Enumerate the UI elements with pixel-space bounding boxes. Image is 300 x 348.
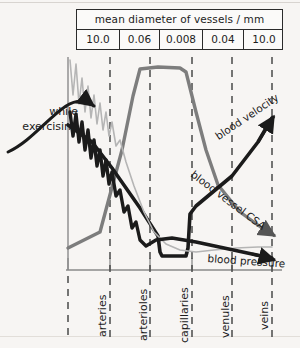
csa-arrow [262, 228, 275, 236]
chart-plot-area [0, 0, 300, 348]
series-blood-velocity [68, 118, 272, 256]
while-exercising-line-1: while [8, 104, 78, 119]
x-label-venules: venules [219, 295, 232, 338]
series-blood-pressure [70, 112, 272, 258]
while-exercising-label: while exercising [8, 104, 78, 134]
x-label-veins: veins [258, 301, 271, 330]
while-exercising-line-2: exercising [8, 119, 78, 134]
x-label-arteries: arteries [96, 295, 109, 337]
figure-root: mean diameter of vessels / mm 10.0 0.06 … [0, 0, 300, 348]
x-label-capillaries: capillaries [178, 287, 191, 343]
x-label-arterioles: arterioles [137, 289, 150, 341]
